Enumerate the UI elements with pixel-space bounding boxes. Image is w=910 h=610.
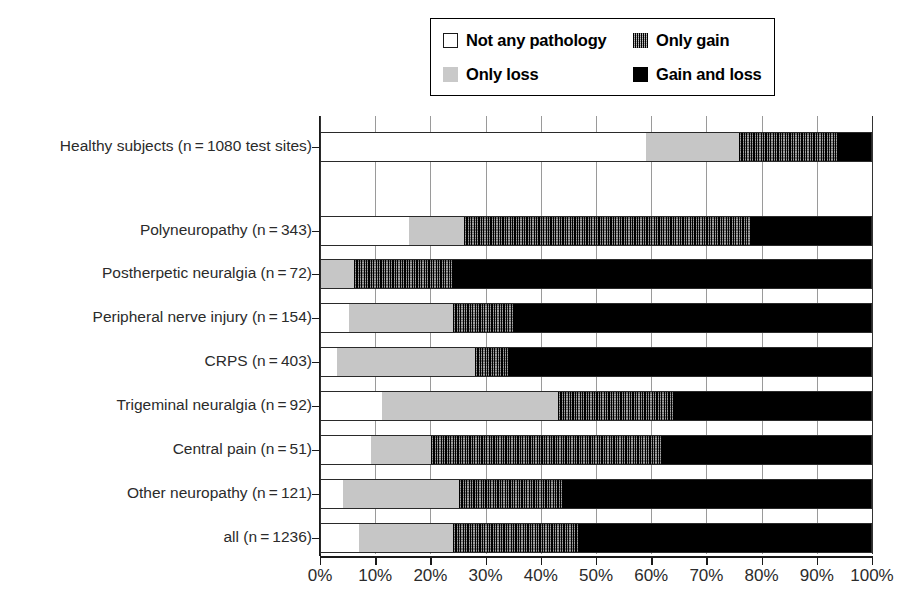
bar-segment-gain [354, 260, 453, 288]
bar-segment-gain [464, 217, 750, 245]
bar-segment-none [321, 304, 349, 332]
bar-row [320, 435, 872, 465]
bar-segment-none [321, 480, 343, 508]
bar-segment-loss [409, 217, 464, 245]
x-axis-tick [430, 556, 431, 565]
y-axis-tick [312, 538, 320, 539]
y-axis-label: Polyneuropathy (n = 343) [8, 221, 320, 239]
x-axis-tick [706, 556, 707, 565]
bar-row [320, 347, 872, 377]
bar-segment-none [321, 392, 382, 420]
bar-row [320, 523, 872, 553]
bar-segment-loss [337, 348, 475, 376]
legend-item-only-loss: Only loss [443, 65, 633, 84]
legend-swatch-only-gain-icon [633, 33, 648, 48]
y-axis-label: Peripheral nerve injury (n = 154) [8, 308, 320, 326]
legend-swatch-not-any-pathology-icon [443, 33, 458, 48]
y-axis-label: CRPS (n = 403) [8, 352, 320, 370]
x-axis-tick-label: 20% [413, 566, 447, 586]
legend-label-not-any-pathology: Not any pathology [466, 31, 607, 50]
y-axis-label: Other neuropathy (n = 121) [8, 484, 320, 502]
bar-segment-loss [349, 304, 454, 332]
gridline-100 [872, 116, 873, 554]
x-axis-tick [872, 556, 873, 565]
x-axis-tick-label: 40% [524, 566, 558, 586]
bar-segment-gain [453, 304, 514, 332]
bar-segment-none [321, 217, 409, 245]
bar-segment-loss [646, 133, 740, 161]
bar-segment-none [321, 524, 359, 552]
legend-swatch-gain-and-loss-icon [633, 67, 648, 82]
bar-row [320, 479, 872, 509]
chart-plot-area [320, 116, 872, 554]
x-axis-tick-label: 60% [634, 566, 668, 586]
bar-segment-gain [453, 524, 580, 552]
bar-row [320, 391, 872, 421]
y-axis-tick [312, 406, 320, 407]
x-axis-tick-label: 100% [850, 566, 893, 586]
x-axis-tick [651, 556, 652, 565]
legend-swatch-only-loss-icon [443, 67, 458, 82]
y-axis-label: Central pain (n = 51) [8, 440, 320, 458]
y-axis-tick [312, 274, 320, 275]
y-axis-tick [312, 147, 320, 148]
y-axis-label: Trigeminal neuralgia (n = 92) [8, 396, 320, 414]
bar-segment-gain [475, 348, 508, 376]
x-axis-tick [541, 556, 542, 565]
chart-legend: Not any pathology Only gain Only loss Ga… [430, 18, 775, 96]
legend-item-gain-and-loss: Gain and loss [633, 65, 788, 84]
y-axis-tick [312, 450, 320, 451]
bar-segment-loss [321, 260, 354, 288]
legend-item-not-any-pathology: Not any pathology [443, 31, 633, 50]
legend-label-only-loss: Only loss [466, 65, 538, 84]
bar-segment-both [563, 480, 871, 508]
x-axis-tick [375, 556, 376, 565]
bar-segment-both [662, 436, 871, 464]
y-axis-labels: Healthy subjects (n = 1080 test sites)Po… [0, 0, 320, 610]
x-axis-tick-label: 10% [358, 566, 392, 586]
bar-segment-both [673, 392, 871, 420]
bar-segment-loss [359, 524, 453, 552]
bar-segment-both [838, 133, 871, 161]
bar-row [320, 132, 872, 162]
x-axis-tick [596, 556, 597, 565]
bar-segment-both [508, 348, 871, 376]
x-axis-tick [486, 556, 487, 565]
bar-segment-none [321, 348, 337, 376]
bar-segment-gain [739, 133, 838, 161]
y-axis-label: Postherpetic neuralgia (n = 72) [8, 264, 320, 282]
legend-label-gain-and-loss: Gain and loss [656, 65, 762, 84]
x-axis-tick-label: 80% [745, 566, 779, 586]
bar-segment-gain [558, 392, 674, 420]
legend-label-only-gain: Only gain [656, 31, 729, 50]
x-axis-tick [817, 556, 818, 565]
bar-segment-loss [343, 480, 459, 508]
bar-segment-loss [382, 392, 558, 420]
y-axis-label: Healthy subjects (n = 1080 test sites) [8, 137, 320, 155]
x-axis-tick-label: 50% [579, 566, 613, 586]
x-axis-labels: 0%10%20%30%40%50%60%70%80%90%100% [0, 566, 910, 600]
bar-segment-none [321, 133, 646, 161]
x-axis-tick-label: 90% [800, 566, 834, 586]
x-axis-tick-label: 70% [689, 566, 723, 586]
bar-segment-loss [371, 436, 432, 464]
bar-segment-gain [459, 480, 564, 508]
bar-row [320, 216, 872, 246]
y-axis-tick [312, 494, 320, 495]
bar-segment-both [514, 304, 872, 332]
bar-segment-both [750, 217, 871, 245]
y-axis-tick [312, 362, 320, 363]
bar-segment-both [453, 260, 871, 288]
legend-item-only-gain: Only gain [633, 31, 788, 50]
bar-row [320, 259, 872, 289]
bar-segment-none [321, 436, 371, 464]
bar-segment-gain [431, 436, 662, 464]
y-axis-tick [312, 318, 320, 319]
x-axis-tick [320, 556, 321, 565]
bar-row [320, 303, 872, 333]
y-axis-label: all (n = 1236) [8, 528, 320, 546]
bar-segment-both [579, 524, 871, 552]
x-axis-tick-label: 30% [469, 566, 503, 586]
stacked-bars [320, 116, 872, 554]
x-axis-tick [762, 556, 763, 565]
